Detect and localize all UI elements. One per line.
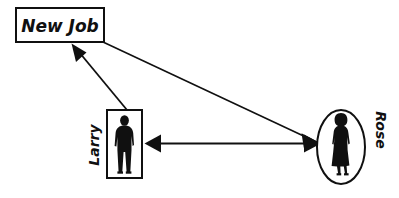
diagram-svg: New Job Larry Rose bbox=[0, 0, 399, 198]
new-job-label: New Job bbox=[21, 16, 99, 36]
node-rose[interactable]: Rose bbox=[317, 110, 389, 184]
edge-larry-rose-bidirectional[interactable] bbox=[145, 135, 322, 153]
larry-label: Larry bbox=[86, 123, 102, 165]
edge-larry-to-new-job-line bbox=[79, 52, 127, 110]
edge-larry-rose-arrowhead-left bbox=[145, 135, 162, 153]
diagram-canvas: New Job Larry Rose bbox=[0, 0, 399, 198]
edge-larry-to-new-job[interactable] bbox=[72, 44, 128, 111]
rose-label: Rose bbox=[373, 111, 389, 149]
node-larry[interactable]: Larry bbox=[86, 110, 142, 178]
node-new-job[interactable]: New Job bbox=[16, 8, 104, 42]
